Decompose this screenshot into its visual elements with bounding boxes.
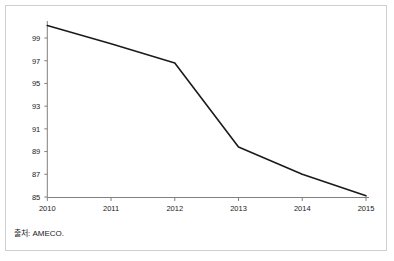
y-tick-label: 97 [32, 57, 40, 66]
y-tick-label: 95 [32, 79, 40, 88]
y-tick-label: 89 [32, 147, 40, 156]
x-tick-label: 2011 [103, 204, 119, 213]
y-tick-label: 87 [32, 170, 40, 179]
x-tick-labels: 201020112012201320142015 [39, 204, 374, 213]
x-tick-label: 2014 [294, 204, 311, 213]
y-tick-label: 99 [32, 34, 40, 43]
y-tick-label: 85 [32, 193, 40, 202]
x-tick-label: 2015 [358, 204, 375, 213]
x-tick-label: 2012 [166, 204, 183, 213]
y-tick-labels: 9997959391898785 [32, 34, 40, 202]
y-tick-label: 91 [32, 125, 40, 134]
x-tick-label: 2010 [39, 204, 56, 213]
figure-container: 9997959391898785 20102011201220132014201… [0, 0, 394, 261]
data-series-line [47, 26, 366, 196]
x-tick-marks [47, 198, 366, 202]
source-note: 출처: AMECO. [14, 227, 64, 238]
y-tick-label: 93 [32, 102, 40, 111]
x-tick-label: 2013 [230, 204, 247, 213]
line-chart: 9997959391898785 20102011201220132014201… [0, 0, 394, 261]
